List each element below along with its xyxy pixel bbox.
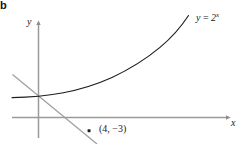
plotted-point-label: (4, −3) [99,124,126,134]
plotted-point-marker [88,129,91,132]
curve-equation-exponent: x [216,11,219,19]
exponential-function-figure: b y x y = 2x (4, −3) [0,0,241,144]
y-axis-label: y [27,17,31,27]
x-axis-label: x [231,118,235,128]
secant-line [13,75,98,145]
curve-equation-operator: = [200,12,211,23]
curve-equation-label: y = 2x [196,12,219,23]
part-label: b [0,0,7,11]
